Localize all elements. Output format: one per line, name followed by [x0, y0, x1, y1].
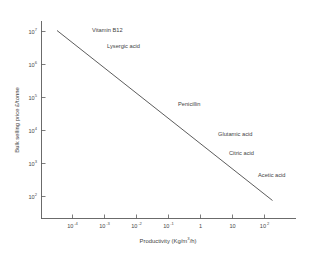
chart-figure: 107 106 105 104 103 102 [0, 0, 315, 255]
x-tick-base-5: 10 [229, 223, 235, 229]
annotation-penicillin: Penicillin [178, 101, 200, 107]
x-tick-exp-1: -3 [106, 221, 110, 226]
x-tick-base-3: 10 [163, 223, 169, 229]
x-axis-title: Productivity (Kg/m3/h) [139, 236, 196, 244]
annotation-vitamin-b12: Vitamin B12 [92, 27, 123, 33]
y-tick-exp-5: 2 [35, 192, 38, 197]
svg-text:102: 102 [28, 192, 37, 200]
x-tick-base-1: 10 [99, 223, 105, 229]
x-tick-base-0: 10 [67, 223, 73, 229]
y-axis-ticks [42, 32, 46, 197]
y-tick-exp-0: 7 [35, 27, 38, 32]
y-axis-title: Bulk selling price £/tonne [14, 87, 20, 153]
chart-plot-area: 107 106 105 104 103 102 [0, 0, 315, 255]
trend-line-series-0 [57, 31, 273, 201]
x-axis-tick-labels: 10-4 10-3 10-2 10-1 1 10 102 [67, 221, 270, 229]
svg-text:1: 1 [199, 223, 202, 229]
x-tick-exp-6: 2 [267, 221, 270, 226]
svg-text:105: 105 [28, 93, 37, 101]
x-axis-ticks [73, 215, 265, 219]
svg-text:10: 10 [229, 223, 235, 229]
annotation-glutamic-acid: Glutamic acid [218, 131, 252, 137]
y-tick-exp-3: 4 [35, 126, 38, 131]
y-axis-tick-labels: 107 106 105 104 103 102 [28, 27, 37, 200]
svg-text:102: 102 [260, 221, 270, 229]
svg-text:10-1: 10-1 [163, 221, 174, 229]
annotation-acetic-acid: Acetic acid [258, 172, 286, 178]
x-axis-title-main: Productivity (Kg/m [139, 238, 187, 244]
y-tick-exp-1: 6 [35, 60, 38, 65]
x-tick-exp-2: -2 [138, 221, 142, 226]
x-tick-exp-0: -4 [74, 221, 78, 226]
x-tick-base-6: 10 [260, 223, 266, 229]
svg-text:104: 104 [28, 126, 37, 134]
annotation-lysergic-acid: Lysergic acid [107, 43, 140, 49]
svg-text:103: 103 [28, 159, 37, 167]
svg-text:106: 106 [28, 60, 37, 68]
svg-text:10-4: 10-4 [67, 221, 78, 229]
x-tick-base-2: 10 [131, 223, 137, 229]
y-tick-exp-4: 3 [35, 159, 38, 164]
data-point-annotations: Vitamin B12 Lysergic acid Penicillin Glu… [92, 27, 286, 178]
svg-text:10-3: 10-3 [99, 221, 110, 229]
x-tick-exp-3: -1 [170, 221, 174, 226]
y-tick-exp-2: 5 [35, 93, 38, 98]
svg-text:10-2: 10-2 [131, 221, 142, 229]
x-tick-base-4: 1 [199, 223, 202, 229]
x-axis-title-tail: /h) [190, 238, 197, 244]
svg-text:107: 107 [28, 27, 37, 35]
annotation-citric-acid: Citric acid [229, 150, 254, 156]
